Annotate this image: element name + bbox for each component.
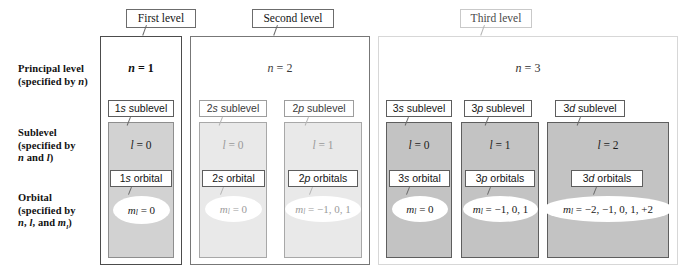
- row-label-sublevel: Sublevel (specified by n and l): [18, 127, 110, 165]
- orbital-callout-2p: 2p orbitals: [288, 170, 358, 187]
- l-label-2p: l = 1: [285, 139, 361, 151]
- level-tag-third: Third level: [460, 9, 532, 28]
- sublevel-callout-3p: 3p sublevel: [464, 100, 532, 117]
- l-label-2s: l = 0: [200, 139, 266, 151]
- sublevel-box-3p: l = 1: [461, 122, 539, 258]
- sublevel-box-3d: l = 2: [547, 122, 669, 258]
- row-label-principal-level-line1: Principal level: [18, 63, 84, 74]
- ml-ellipse-3d: ml = −2, −1, 0, 1, +2: [543, 196, 673, 222]
- sublevel-box-2p: l = 1: [284, 122, 362, 258]
- l-label-1s: l = 0: [109, 139, 173, 151]
- orbital-hierarchy-diagram: Principal level (specified by n) Subleve…: [0, 0, 692, 275]
- orbital-callout-2s: 2s orbital: [202, 170, 265, 187]
- n-label-first: n = 1: [101, 61, 181, 76]
- orbital-callout-3s: 3s orbital: [389, 170, 450, 187]
- orbital-callout-1s: 1s orbital: [110, 170, 172, 187]
- row-label-orbital-line2: (specified by: [18, 205, 76, 216]
- row-label-principal-level-line2: (specified by n): [18, 76, 88, 87]
- sublevel-callout-2p: 2p sublevel: [284, 100, 354, 117]
- sublevel-callout-3s: 3s sublevel: [386, 100, 452, 117]
- orbital-callout-3p: 3p orbitals: [465, 170, 535, 187]
- ml-ellipse-3s: ml = 0: [392, 196, 448, 222]
- ml-ellipse-1s: ml = 0: [113, 196, 170, 224]
- sublevel-box-2s: l = 0: [199, 122, 267, 258]
- l-label-3p: l = 1: [462, 139, 538, 151]
- ml-ellipse-2s: ml = 0: [205, 196, 262, 222]
- ml-ellipse-3p: ml = −1, 0, 1: [463, 196, 538, 222]
- row-label-principal-level: Principal level (specified by n): [18, 63, 110, 88]
- row-label-orbital: Orbital (specified by n, l, and ml): [18, 192, 110, 234]
- row-label-orbital-line1: Orbital: [18, 192, 52, 203]
- n-label-second: n = 2: [191, 61, 369, 76]
- orbital-callout-3d: 3d orbitals: [571, 170, 643, 187]
- row-label-sublevel-line3: n and l): [18, 152, 53, 163]
- sublevel-callout-3d: 3d sublevel: [555, 100, 625, 117]
- row-label-orbital-line3: n, l, and ml): [18, 217, 72, 228]
- sublevel-box-3s: l = 0: [386, 122, 452, 258]
- row-label-sublevel-line2: (specified by: [18, 140, 76, 151]
- level-tag-first: First level: [126, 9, 196, 28]
- ml-ellipse-2p: ml = −1, 0, 1: [285, 196, 361, 222]
- l-label-3s: l = 0: [387, 139, 451, 151]
- sublevel-box-1s: l = 0: [108, 122, 174, 258]
- sublevel-callout-1s: 1s sublevel: [108, 100, 174, 117]
- level-tag-second: Second level: [252, 9, 334, 28]
- sublevel-callout-2s: 2s sublevel: [199, 100, 267, 117]
- n-label-third: n = 3: [379, 61, 677, 76]
- row-label-sublevel-line1: Sublevel: [18, 127, 57, 138]
- l-label-3d: l = 2: [548, 139, 668, 151]
